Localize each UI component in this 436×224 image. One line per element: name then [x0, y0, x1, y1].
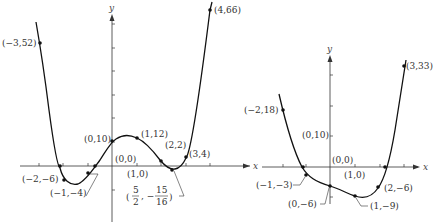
point-label-1-neg9: (1,−9) — [370, 201, 399, 211]
point-label-0-neg6: (0,−6) — [288, 199, 317, 209]
min-point-label: ( 5 2 , − 15 16 ) — [126, 185, 173, 207]
left-ticks — [39, 24, 210, 190]
point-label-1-0: (1,0) — [344, 170, 365, 180]
point-label-neg2-18: (−2,18) — [244, 105, 279, 115]
point-label-neg1-neg4: (−1,−4) — [50, 188, 86, 198]
leader-line-0-neg6 — [320, 188, 329, 204]
point-label-1-12: (1,12) — [141, 129, 168, 139]
point-label-2-neg6: (2,−6) — [384, 183, 413, 193]
leader-line-1-neg9 — [356, 198, 368, 206]
point-label-0-0: (0,0) — [115, 154, 136, 164]
point-label-0-10: (0,10) — [84, 134, 111, 144]
left-graph: x y (−3,52) (4,66) (0,10) (1,12) (2,2) (… — [2, 2, 258, 222]
point-label-neg1-neg3: (−1,−3) — [256, 180, 292, 190]
point-label-2-2: (2,2) — [165, 140, 186, 150]
point-label-neg2-neg6: (−2,−6) — [22, 174, 58, 184]
point-label-3-4: (3,4) — [189, 149, 210, 159]
point-label-0-10: (0,10) — [302, 130, 329, 140]
left-x-label: x — [253, 161, 258, 171]
point-label-1-0: (1,0) — [127, 169, 148, 179]
point-label-0-0: (0,0) — [332, 155, 353, 165]
svg-text:16: 16 — [156, 197, 168, 207]
left-x-arrow-icon — [243, 164, 250, 169]
right-y-arrow-icon — [328, 55, 333, 62]
svg-text:5: 5 — [133, 185, 139, 195]
figure-canvas: x y (−3,52) (4,66) (0,10) (1,12) (2,2) (… — [0, 0, 436, 224]
leader-line-neg1-neg4 — [86, 174, 98, 196]
right-graph: x y (−2,18) (3,33) (0,10) (0,0) (1,0) (−… — [244, 44, 433, 211]
point-label-3-33: (3,33) — [406, 61, 433, 71]
right-x-arrow-icon — [413, 165, 420, 170]
right-x-label: x — [423, 162, 428, 172]
right-curve — [279, 60, 406, 197]
left-y-arrow-icon — [110, 14, 115, 21]
leader-line-neg1-neg3 — [293, 177, 305, 185]
svg-text:, −: , − — [141, 191, 154, 201]
point-label-4-66: (4,66) — [214, 5, 241, 15]
leader-line-min-point — [174, 171, 184, 196]
right-y-label: y — [326, 44, 333, 54]
svg-text:15: 15 — [156, 185, 168, 195]
svg-text:2: 2 — [133, 197, 139, 207]
svg-text:): ) — [169, 192, 173, 202]
svg-text:(: ( — [126, 192, 130, 202]
left-y-label: y — [108, 3, 115, 13]
point-label-neg3-52: (−3,52) — [2, 38, 37, 48]
